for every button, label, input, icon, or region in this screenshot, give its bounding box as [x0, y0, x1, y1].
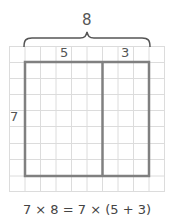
- background-grid: [9, 46, 165, 192]
- area-model-diagram: [0, 0, 174, 221]
- left-part-label: 5: [60, 46, 68, 59]
- equation: 7 × 8 = 7 × (5 + 3): [0, 202, 174, 217]
- height-label: 7: [10, 110, 18, 123]
- right-part-label: 3: [121, 46, 129, 59]
- total-width-label: 8: [82, 13, 92, 28]
- curly-brace: [24, 32, 150, 47]
